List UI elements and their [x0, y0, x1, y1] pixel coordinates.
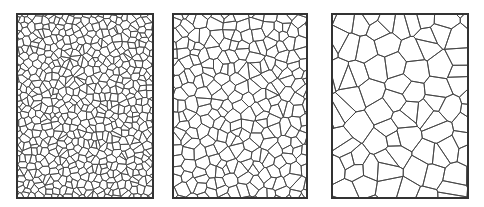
grain-panel-fine	[16, 13, 154, 199]
grain-panel-coarse	[331, 13, 469, 199]
grain-boundaries	[174, 15, 306, 197]
grain-boundaries	[333, 15, 467, 197]
grain-boundaries	[18, 15, 152, 197]
grain-panel-medium	[172, 13, 308, 199]
